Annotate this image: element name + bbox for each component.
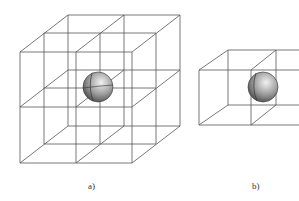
figure-canvas <box>0 0 299 201</box>
sphere-b <box>248 72 278 102</box>
panel-a-label: a) <box>88 181 95 191</box>
panel-b-label: b) <box>252 181 260 191</box>
sphere-a <box>83 72 113 102</box>
